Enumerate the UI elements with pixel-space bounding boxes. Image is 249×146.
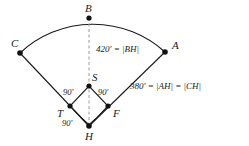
measure-label-sf: 90' [98, 88, 108, 97]
vertex-label-h: H [85, 131, 93, 142]
vertex-label-s: S [92, 72, 98, 83]
vertex-dot-s [86, 83, 91, 88]
vertex-dot-h [86, 123, 92, 129]
vertex-label-c: C [11, 38, 18, 49]
vertex-label-b: B [85, 3, 92, 14]
measure-label-ht: 90' [62, 119, 72, 128]
vertex-dot-b [86, 15, 91, 20]
geometry-figure: B C A S T F H 90' 90' 90' 420' = |BH| 38… [0, 0, 249, 146]
corner-distance-label: 380' = |AH| = |CH| [130, 82, 201, 91]
center-field-distance-label: 420' = |BH| [96, 45, 139, 54]
vertex-dot-a [162, 49, 168, 55]
measure-label-ts: 90' [63, 88, 73, 97]
vertex-dot-f [105, 103, 110, 108]
vertex-dot-t [67, 103, 72, 108]
vertex-label-f: F [113, 108, 120, 119]
vertex-dot-c [17, 50, 23, 56]
outfield-arc [20, 24, 165, 53]
diagram-canvas [0, 0, 249, 146]
vertex-label-a: A [172, 40, 179, 51]
